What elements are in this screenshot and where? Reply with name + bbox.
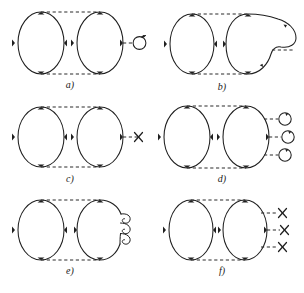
panel-c-left-loop-arrow-left	[12, 134, 15, 141]
panel-f-cross-mark-1	[279, 209, 287, 218]
panel-e-curl-connector	[120, 234, 121, 245]
panel-d-small-circle-3	[279, 149, 291, 161]
panel-a-left-loop-arrow-left	[12, 40, 15, 47]
panel-f-label: f)	[219, 265, 226, 277]
panel-e-left-loop-arrow-left	[12, 227, 15, 234]
panel-f: f)	[163, 200, 289, 277]
panel-b-label: b)	[218, 81, 227, 93]
panel-d-right-loop-arrow-left	[217, 134, 220, 141]
panel-c: c)	[12, 107, 143, 185]
panel-d-label: d)	[218, 173, 227, 185]
panel-e-curl-1	[121, 214, 130, 223]
panel-a: a)	[12, 12, 146, 91]
panel-a-right-loop	[77, 12, 123, 74]
panel-b-left-loop	[170, 14, 214, 74]
panel-c-right-loop-arrow-left	[71, 134, 74, 141]
panel-b-left-loop-arrow-left	[164, 41, 167, 48]
panel-e-curl-2	[121, 223, 131, 234]
panel-a-label: a)	[66, 79, 75, 91]
panel-f-right-loop	[223, 200, 267, 260]
panel-b-kidney-arrow-lower-right	[260, 64, 263, 67]
panel-c-label: c)	[66, 173, 74, 185]
panel-b-kidney-arrow-upper-right	[284, 25, 288, 28]
panel-d-small-circle-1	[279, 113, 291, 125]
panel-d-left-loop	[164, 106, 210, 168]
panel-b: b)	[164, 14, 296, 93]
panel-f-left-loop	[169, 200, 213, 260]
panel-c-left-loop	[18, 107, 64, 167]
panel-f-cross-mark-3	[279, 243, 287, 252]
panel-a-right-loop-arrow-left	[71, 40, 74, 47]
panel-d-left-loop-arrow-left	[158, 134, 161, 141]
panel-e-right-loop-left-half	[77, 200, 120, 260]
figure-canvas: a) b)	[0, 0, 304, 293]
panel-c-right-loop	[77, 107, 123, 167]
figure-root: a) b)	[0, 0, 304, 293]
panel-d-small-circle-2	[282, 131, 294, 143]
panel-a-left-loop	[18, 12, 64, 74]
panel-e-curl-3	[121, 234, 131, 245]
panel-d-right-loop	[223, 106, 269, 168]
panel-f-left-loop-arrow-left	[163, 227, 166, 234]
panel-d: d)	[158, 106, 294, 185]
panel-e-right-loop-upper-right	[100, 200, 121, 214]
panel-f-right-loop-arrow-left	[218, 227, 221, 234]
panel-e-left-loop	[18, 200, 64, 260]
panel-e: e)	[12, 200, 130, 277]
panel-f-cross-mark-2	[281, 226, 289, 235]
panel-a-small-circle	[133, 37, 146, 50]
panel-e-label: e)	[66, 265, 74, 277]
